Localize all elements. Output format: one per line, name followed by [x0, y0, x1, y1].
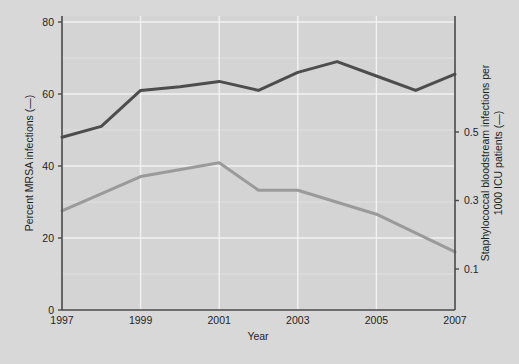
right-tick-label: 0.3 — [464, 194, 479, 206]
left-tick-label: 80 — [42, 16, 54, 28]
x-tick-label: 1997 — [50, 314, 74, 326]
right-tick-label: 0.5 — [464, 126, 479, 138]
chart-svg: 020406080 0.10.30.5 19971999200120032005… — [0, 0, 519, 364]
left-axis-title: Percent MRSA infections (—) — [23, 95, 35, 232]
left-tick-label: 40 — [42, 160, 54, 172]
right-axis-title-line2: 1000 ICU patients (—) — [492, 111, 504, 215]
x-tick-label: 2001 — [208, 314, 232, 326]
x-axis-title: Year — [247, 330, 269, 342]
x-tick-label: 2007 — [443, 314, 467, 326]
right-axis-title-line1: Staphylococcal bloodstream infections pe… — [479, 64, 491, 261]
x-tick-label: 1999 — [129, 314, 153, 326]
x-tick-label: 2003 — [286, 314, 310, 326]
plot-area-background — [62, 16, 455, 310]
left-tick-label: 20 — [42, 232, 54, 244]
chart-figure: 020406080 0.10.30.5 19971999200120032005… — [0, 0, 519, 364]
right-tick-label: 0.1 — [464, 263, 479, 275]
x-tick-label: 2005 — [365, 314, 389, 326]
left-tick-label: 60 — [42, 88, 54, 100]
